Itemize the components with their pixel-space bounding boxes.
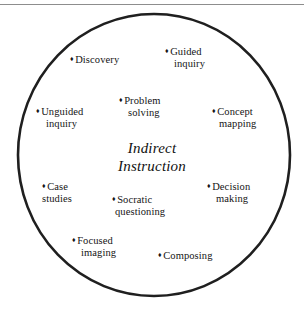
diamond-bullet-icon: ♦ (42, 182, 46, 190)
node-unguided-inquiry: ♦Unguided inquiry (36, 105, 83, 130)
diamond-bullet-icon: ♦ (112, 195, 116, 203)
diamond-bullet-icon: ♦ (70, 55, 74, 63)
node-case-studies-line1: Case (47, 181, 68, 192)
node-guided-inquiry: ♦Guided inquiry (165, 45, 205, 70)
node-focused-imaging-line2: imaging (72, 247, 116, 259)
node-socratic-questioning-line2: questioning (112, 206, 165, 218)
center-label-line2: Instruction (0, 158, 304, 176)
node-guided-inquiry-line2: inquiry (165, 58, 205, 70)
node-focused-imaging-line1: Focused (77, 235, 113, 246)
node-case-studies: ♦Case studies (42, 180, 72, 205)
diamond-bullet-icon: ♦ (207, 182, 211, 190)
node-unguided-inquiry-line2: inquiry (36, 118, 83, 130)
node-decision-making-line1: Decision (212, 181, 250, 192)
node-discovery-line1: Discovery (75, 54, 119, 65)
node-decision-making-line2: making (207, 193, 250, 205)
diamond-bullet-icon: ♦ (212, 107, 216, 115)
node-composing: ♦Composing (158, 249, 213, 262)
node-concept-mapping: ♦Concept mapping (212, 105, 256, 130)
node-discovery: ♦Discovery (70, 53, 119, 66)
node-concept-mapping-line1: Concept (217, 106, 253, 117)
node-unguided-inquiry-line1: Unguided (41, 106, 83, 117)
diamond-bullet-icon: ♦ (119, 96, 123, 104)
node-case-studies-line2: studies (42, 193, 72, 205)
node-concept-mapping-line2: mapping (212, 118, 256, 130)
node-decision-making: ♦Decision making (207, 180, 250, 205)
node-socratic-questioning: ♦Socratic questioning (112, 193, 165, 218)
diamond-bullet-icon: ♦ (165, 47, 169, 55)
diamond-bullet-icon: ♦ (158, 251, 162, 259)
node-problem-solving-line1: Problem (124, 95, 160, 106)
node-problem-solving-line2: solving (119, 107, 160, 119)
node-problem-solving: ♦Problem solving (119, 94, 160, 119)
figure-canvas: ♦Discovery ♦Guided inquiry ♦Unguided inq… (0, 0, 304, 313)
node-guided-inquiry-line1: Guided (170, 46, 202, 57)
diamond-bullet-icon: ♦ (72, 236, 76, 244)
center-label-line1: Indirect (128, 140, 177, 156)
node-composing-line1: Composing (163, 250, 212, 261)
node-socratic-questioning-line1: Socratic (117, 194, 152, 205)
diamond-bullet-icon: ♦ (36, 107, 40, 115)
node-focused-imaging: ♦Focused imaging (72, 234, 116, 259)
center-label: Indirect Instruction (0, 140, 304, 175)
